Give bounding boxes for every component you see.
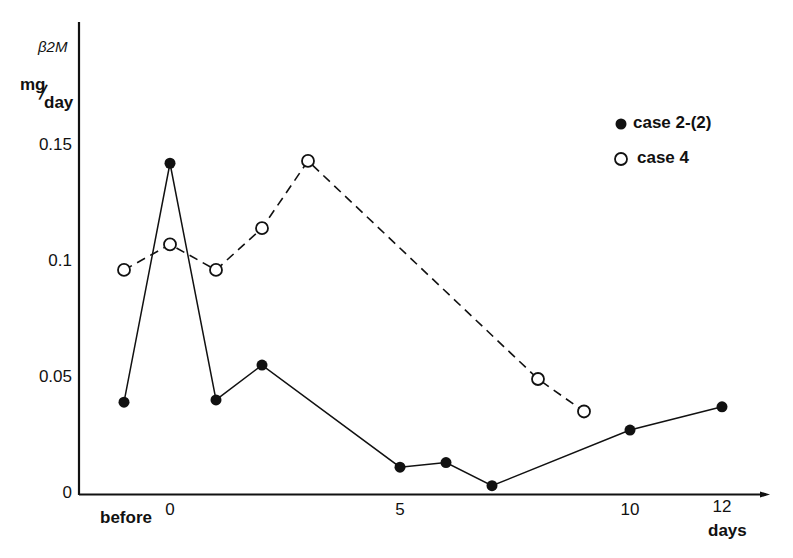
y-tick-label: 0.1 <box>12 251 72 271</box>
line-chart <box>0 0 793 558</box>
data-point <box>257 360 268 371</box>
axes <box>79 22 770 498</box>
x-axis-label: days <box>708 521 747 541</box>
legend-label-case-4: case 4 <box>637 148 689 168</box>
data-point <box>717 401 728 412</box>
series-case-2-2 <box>119 158 728 491</box>
x-tick-label: 5 <box>395 500 404 520</box>
y-axis-unit-bottom: day <box>44 93 73 113</box>
data-point <box>211 394 222 405</box>
legend-label-case-2-2: case 2-(2) <box>633 113 711 133</box>
series-layer <box>118 155 728 491</box>
y-axis-label: β2M <box>38 38 67 55</box>
series-case-4 <box>118 155 590 418</box>
y-tick-label: 0 <box>12 483 72 503</box>
y-axis-label-quantity: β2M <box>38 38 67 55</box>
legend-marker-open-circle-icon <box>615 153 627 165</box>
x-axis-arrow <box>760 492 770 498</box>
x-tick-label: 0 <box>165 500 174 520</box>
series-line <box>124 161 584 412</box>
data-point <box>578 405 590 417</box>
x-tick-label: 12 <box>713 497 732 517</box>
series-line <box>124 163 722 485</box>
data-point <box>164 238 176 250</box>
x-tick-label: 10 <box>621 500 640 520</box>
data-point <box>441 457 452 468</box>
data-point <box>165 158 176 169</box>
data-point <box>487 480 498 491</box>
data-point <box>118 264 130 276</box>
x-tick-label: before <box>100 508 152 528</box>
data-point <box>302 155 314 167</box>
y-tick-label: 0.15 <box>12 135 72 155</box>
data-point <box>395 462 406 473</box>
data-point <box>532 373 544 385</box>
data-point <box>119 397 130 408</box>
legend-marker-filled-circle-icon <box>616 119 627 130</box>
data-point <box>625 425 636 436</box>
y-tick-label: 0.05 <box>12 367 72 387</box>
legend <box>615 119 627 166</box>
data-point <box>210 264 222 276</box>
data-point <box>256 222 268 234</box>
